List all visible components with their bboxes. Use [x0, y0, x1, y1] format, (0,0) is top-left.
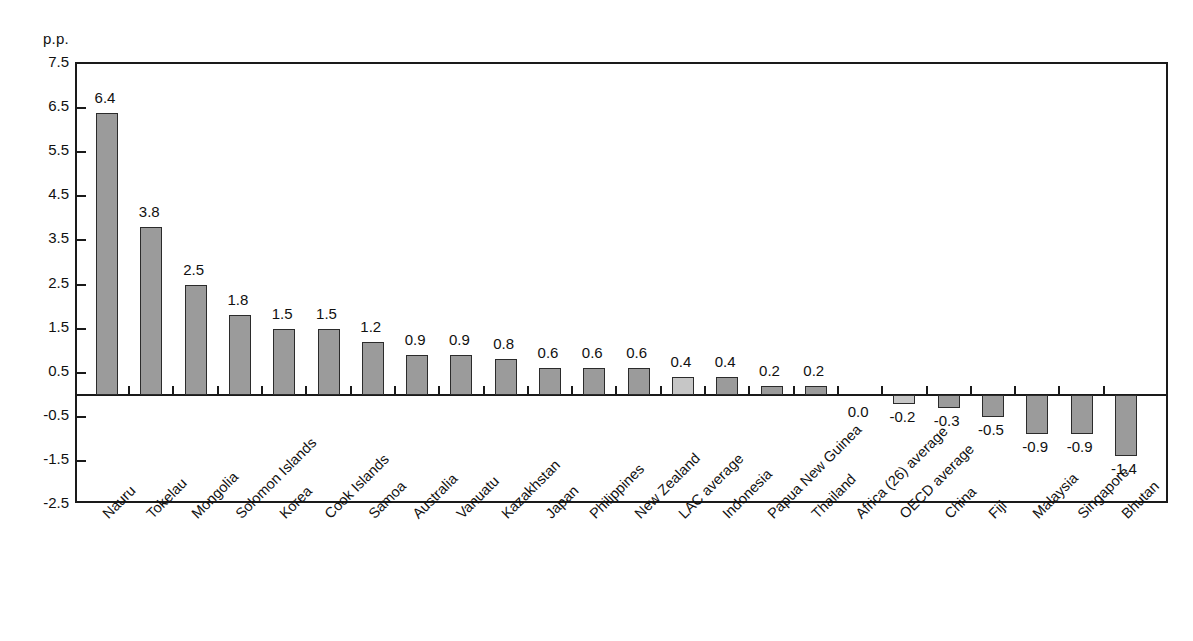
bar-value-label: -1.4: [1095, 461, 1153, 476]
y-axis-tick: [77, 460, 86, 462]
x-axis-tick: [172, 386, 174, 394]
y-axis-tick-label: 0.5: [7, 363, 69, 378]
y-axis-tick: [77, 239, 86, 241]
y-axis-unit-label: p.p.: [43, 30, 69, 47]
bar[interactable]: [761, 386, 783, 395]
bar[interactable]: [539, 368, 561, 394]
bar[interactable]: [362, 342, 384, 395]
clipped-header-text-value: [0, 0, 104, 3]
bar-value-label: -0.5: [962, 422, 1020, 437]
bar-value-label: 0.2: [785, 363, 843, 378]
x-axis-tick: [527, 386, 529, 394]
x-axis-tick: [394, 386, 396, 394]
x-axis-tick: [1014, 386, 1016, 394]
x-axis-tick: [881, 386, 883, 394]
y-axis-tick-label: 2.5: [7, 275, 69, 290]
y-axis-tick-label: 6.5: [7, 98, 69, 113]
bar-value-label: 3.8: [120, 204, 178, 219]
x-axis-tick: [1103, 386, 1105, 394]
y-axis-tick-label: 4.5: [7, 186, 69, 201]
bar[interactable]: [185, 285, 207, 395]
bar[interactable]: [450, 355, 472, 395]
x-axis-tick: [970, 386, 972, 394]
y-axis-tick: [77, 195, 86, 197]
x-axis-tick: [350, 386, 352, 394]
x-axis-tick: [438, 386, 440, 394]
x-axis-tick: [483, 386, 485, 394]
y-axis-tick: [77, 372, 86, 374]
y-axis-tick: [77, 107, 86, 109]
bar[interactable]: [938, 395, 960, 408]
x-axis-tick: [926, 386, 928, 394]
y-axis-tick-label: -1.5: [7, 451, 69, 466]
y-axis-tick-label: 5.5: [7, 142, 69, 157]
y-axis-tick: [77, 416, 86, 418]
bar[interactable]: [672, 377, 694, 395]
x-axis-tick: [660, 386, 662, 394]
bar[interactable]: [273, 329, 295, 395]
bar-value-label: 2.5: [165, 262, 223, 277]
bar[interactable]: [583, 368, 605, 394]
x-axis-tick: [1058, 386, 1060, 394]
bar[interactable]: [893, 395, 915, 404]
y-axis-tick-label: 3.5: [7, 230, 69, 245]
bar[interactable]: [805, 386, 827, 395]
x-axis-tick: [837, 386, 839, 394]
x-axis-tick: [261, 386, 263, 394]
x-axis-tick: [793, 386, 795, 394]
bar[interactable]: [982, 395, 1004, 417]
bar[interactable]: [96, 113, 118, 395]
y-axis-tick-label: 1.5: [7, 319, 69, 334]
bar[interactable]: [1071, 395, 1093, 435]
y-axis-tick: [77, 284, 86, 286]
bar[interactable]: [716, 377, 738, 395]
bar[interactable]: [495, 359, 517, 394]
y-axis-tick-label: 7.5: [7, 54, 69, 69]
y-axis-tick: [77, 328, 86, 330]
x-axis-tick: [704, 386, 706, 394]
x-axis-tick: [748, 386, 750, 394]
bar[interactable]: [229, 315, 251, 394]
x-axis-tick: [615, 386, 617, 394]
x-axis-tick: [305, 386, 307, 394]
clipped-header-text: [0, 0, 1193, 5]
x-axis-tick: [571, 386, 573, 394]
bar[interactable]: [140, 227, 162, 395]
bar[interactable]: [1115, 395, 1137, 457]
y-axis-tick-label: -0.5: [7, 407, 69, 422]
x-axis-tick: [217, 386, 219, 394]
plot-area: [75, 62, 1168, 503]
bar[interactable]: [406, 355, 428, 395]
chart-page: p.p. 7.56.55.54.53.52.51.50.5-0.5-1.5-2.…: [0, 0, 1193, 641]
bar-value-label: -0.9: [1051, 439, 1109, 454]
y-axis-tick-label: -2.5: [7, 495, 69, 510]
bar[interactable]: [318, 329, 340, 395]
y-axis-tick: [77, 151, 86, 153]
x-axis-tick: [128, 386, 130, 394]
bar[interactable]: [628, 368, 650, 394]
bar[interactable]: [1026, 395, 1048, 435]
bar-value-label: 6.4: [76, 90, 134, 105]
